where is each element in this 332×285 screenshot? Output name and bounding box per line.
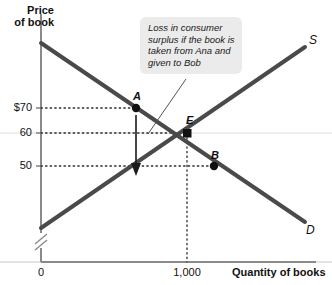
point-b-label: B <box>211 149 219 161</box>
point-e-label: E <box>186 114 193 126</box>
x-tick-label-1000: 1,000 <box>163 266 211 278</box>
consumer-surplus-callout: Loss in consumer surplus if the book is … <box>140 17 242 74</box>
supply-demand-chart: Price of book $70 60 50 0 1,000 Quantity… <box>0 0 332 285</box>
surplus-loss-arrow-head <box>131 163 141 176</box>
point-b-marker <box>210 162 218 170</box>
y-tick-label-70: $70 <box>0 101 32 113</box>
demand-curve-label: D <box>306 223 315 237</box>
axis-break-mark-1 <box>35 234 47 244</box>
y-axis-title-line2: of book <box>0 16 54 28</box>
x-tick-label-origin: 0 <box>31 266 51 278</box>
y-tick-label-60: 60 <box>0 126 32 138</box>
y-axis-title: Price of book <box>0 4 54 28</box>
callout-leader-line <box>148 79 186 134</box>
x-axis-title: Quantity of books <box>232 266 326 278</box>
point-e-marker <box>183 129 192 138</box>
y-axis-title-line1: Price <box>0 4 54 16</box>
y-tick-label-50: 50 <box>0 159 32 171</box>
supply-curve-label: S <box>309 33 317 47</box>
point-a-label: A <box>133 90 141 102</box>
supply-curve <box>41 47 305 228</box>
point-a-marker <box>132 104 140 112</box>
